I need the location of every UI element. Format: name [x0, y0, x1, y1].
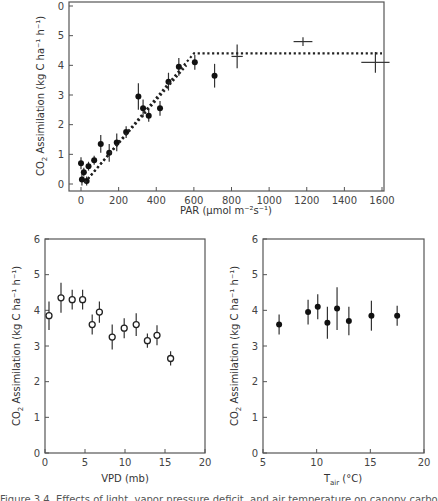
par-x-axis-label: PAR (µmol m⁻²s⁻¹)	[180, 205, 272, 216]
open-circle-marker	[89, 322, 95, 328]
x-tick-label: 10	[119, 457, 132, 468]
tair-y-axis-label: CO2 Assimilation (kg C ha⁻¹ h⁻¹)	[229, 266, 243, 426]
open-circle-marker	[80, 297, 86, 303]
y-tick-label: 0	[34, 448, 40, 459]
figure-caption: Figure 3.4. Effects of light, vapor pres…	[0, 494, 438, 501]
y-tick-label: 6	[34, 234, 40, 245]
y-tick-label: 6	[252, 234, 258, 245]
filled-circle-marker	[315, 304, 321, 310]
x-tick-label: 10	[310, 457, 323, 468]
filled-circle-marker	[86, 163, 92, 169]
y-tick-label: 1	[34, 412, 40, 423]
plot-frame	[69, 2, 384, 191]
open-circle-marker	[58, 295, 64, 301]
y-tick-label: 3	[58, 90, 64, 101]
y-tick-label: 3	[34, 341, 40, 352]
plot-frame	[263, 239, 424, 453]
y-tick-label: 4	[58, 60, 64, 71]
y-tick-label: 4	[252, 305, 258, 316]
tair-response-plot: 51015200123456	[252, 234, 431, 469]
filled-circle-marker	[140, 105, 146, 111]
open-circle-marker	[109, 334, 115, 340]
filled-circle-marker	[98, 141, 104, 147]
filled-circle-marker	[157, 105, 163, 111]
vpd-x-axis-label: VPD (mb)	[101, 473, 149, 484]
x-tick-label: 1400	[332, 195, 357, 206]
y-tick-label: 5	[252, 269, 258, 280]
filled-circle-marker	[212, 73, 218, 79]
open-circle-marker	[144, 338, 150, 344]
x-tick-label: 20	[199, 457, 212, 468]
x-tick-label: 0	[78, 195, 84, 206]
y-tick-label: 2	[58, 119, 64, 130]
filled-circle-marker	[346, 318, 352, 324]
x-tick-label: 15	[159, 457, 172, 468]
open-circle-marker	[46, 313, 52, 319]
y-tick-label: 2	[252, 376, 258, 387]
open-circle-marker	[69, 297, 75, 303]
filled-circle-marker	[334, 306, 340, 312]
open-circle-marker	[168, 355, 174, 361]
x-tick-label: 0	[42, 457, 48, 468]
y-tick-label: 5	[34, 269, 40, 280]
y-tick-label: 0	[58, 1, 64, 12]
y-tick-label: 5	[58, 30, 64, 41]
y-tick-label: 3	[252, 341, 258, 352]
x-tick-label: 15	[364, 457, 377, 468]
filled-circle-marker	[324, 320, 330, 326]
y-tick-label: 1	[58, 149, 64, 160]
x-tick-label: 1200	[294, 195, 319, 206]
filled-circle-marker	[135, 93, 141, 99]
x-tick-label: 1600	[369, 195, 394, 206]
x-tick-label: 5	[260, 457, 266, 468]
filled-circle-marker	[368, 313, 374, 319]
filled-circle-marker	[81, 169, 87, 175]
tair-x-axis-label: Tair (°C)	[323, 473, 362, 487]
open-circle-marker	[133, 322, 139, 328]
figure-canvas: 020040060080010001200140016000123450 051…	[0, 0, 438, 501]
open-circle-marker	[121, 325, 127, 331]
model-fit-line	[85, 53, 382, 182]
plot-frame	[45, 239, 205, 453]
filled-circle-marker	[305, 309, 311, 315]
filled-circle-marker	[146, 113, 152, 119]
open-circle-marker	[154, 332, 160, 338]
par-y-axis-label: CO2 Assimilation (kg C ha⁻¹ h⁻¹)	[35, 16, 49, 176]
y-tick-label: 0	[58, 179, 64, 190]
filled-circle-marker	[78, 160, 84, 166]
x-tick-label: 200	[109, 195, 128, 206]
filled-circle-marker	[192, 59, 198, 65]
x-tick-label: 20	[418, 457, 431, 468]
open-circle-marker	[96, 309, 102, 315]
y-tick-label: 0	[252, 448, 258, 459]
y-tick-label: 1	[252, 412, 258, 423]
filled-circle-marker	[394, 313, 400, 319]
y-tick-label: 4	[34, 305, 40, 316]
par-response-plot: 020040060080010001200140016000123450	[58, 1, 395, 207]
x-tick-label: 5	[82, 457, 88, 468]
x-tick-label: 400	[147, 195, 166, 206]
vpd-y-axis-label: CO2 Assimilation (kg C ha⁻¹ h⁻¹)	[11, 266, 25, 426]
vpd-response-plot: 051015200123456	[34, 234, 212, 469]
filled-circle-marker	[276, 322, 282, 328]
y-tick-label: 2	[34, 376, 40, 387]
filled-circle-marker	[91, 157, 97, 163]
